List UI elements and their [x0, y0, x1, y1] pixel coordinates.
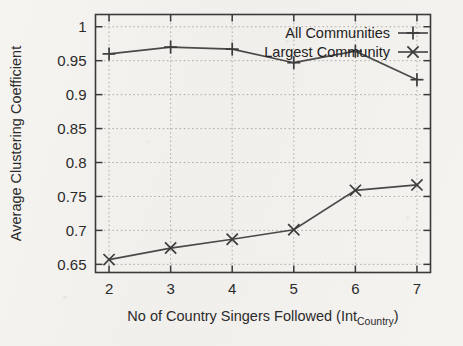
x-axis-label: No of Country Singers Followed (IntCount… [127, 308, 398, 328]
chart-figure: 0.650.70.750.80.850.90.951234567All Comm… [0, 0, 463, 346]
y-tick-label: 0.85 [57, 120, 86, 137]
marker-plus [407, 27, 420, 40]
x-tick-label: 7 [413, 280, 421, 297]
x-tick-label: 5 [290, 280, 298, 297]
x-axis-label-suffix: ) [394, 308, 399, 324]
y-tick-label: 1 [78, 18, 86, 35]
x-tick-label: 2 [105, 280, 113, 297]
y-tick-label: 0.7 [66, 222, 87, 239]
marker-plus [226, 43, 239, 56]
y-tick-label: 0.8 [66, 154, 87, 171]
x-axis-label-subscript: Country [357, 315, 395, 327]
line-chart-svg: 0.650.70.750.80.850.90.951234567All Comm… [0, 0, 463, 346]
legend-label: All Communities [285, 25, 390, 41]
marker-plus [103, 47, 116, 60]
y-tick-label: 0.75 [57, 188, 86, 205]
x-tick-label: 3 [166, 280, 174, 297]
marker-plus [410, 73, 423, 86]
x-axis-label-main: No of Country Singers Followed (Int [127, 308, 357, 324]
y-axis-label: Average Clustering Coefficient [8, 46, 24, 241]
y-tick-label: 0.95 [57, 52, 86, 69]
x-tick-label: 4 [228, 280, 236, 297]
y-tick-label: 0.9 [66, 86, 87, 103]
legend-label: Largest Community [264, 44, 390, 60]
y-tick-label: 0.65 [57, 256, 86, 273]
marker-plus [164, 41, 177, 54]
x-tick-label: 6 [351, 280, 359, 297]
